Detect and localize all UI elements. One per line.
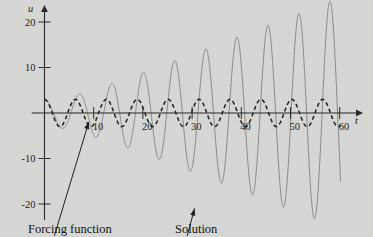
chart-svg: 102030405060 -20-101020 u t Forcing func…	[0, 0, 373, 237]
y-axis-label: u	[28, 3, 33, 14]
x-tick-label: 40	[240, 121, 251, 132]
x-tick-label: 30	[191, 121, 202, 132]
solution-caption: Solution	[175, 222, 218, 236]
resonance-chart-figure: 102030405060 -20-101020 u t Forcing func…	[0, 0, 373, 237]
y-tick-label: 20	[25, 17, 36, 28]
x-tick-label: 60	[339, 121, 350, 132]
x-tick-label: 20	[142, 121, 153, 132]
forcing-function-caption: Forcing function	[28, 222, 112, 236]
x-tick-label: 10	[93, 121, 104, 132]
x-tick-label: 50	[290, 121, 301, 132]
y-tick-label: -10	[22, 153, 36, 164]
y-tick-label: -20	[22, 199, 36, 210]
y-tick-label: 10	[25, 62, 36, 73]
